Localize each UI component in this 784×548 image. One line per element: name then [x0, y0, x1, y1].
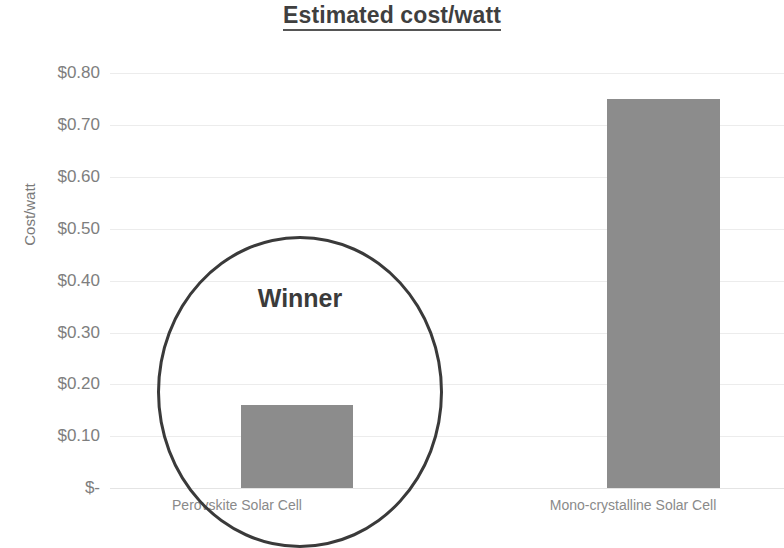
y-tick-label: $0.80 — [0, 63, 100, 83]
y-tick-label: $0.50 — [0, 219, 100, 239]
y-tick-label: $0.40 — [0, 271, 100, 291]
y-tick-label: $- — [0, 478, 100, 498]
bar-mono-crystalline[interactable] — [607, 99, 720, 488]
y-tick-label: $0.20 — [0, 374, 100, 394]
winner-annotation-label: Winner — [157, 284, 443, 313]
y-tick-label: $0.30 — [0, 323, 100, 343]
y-tick-label: $0.70 — [0, 115, 100, 135]
winner-highlight-ellipse — [157, 236, 443, 548]
y-tick-label: $0.60 — [0, 167, 100, 187]
gridline — [110, 73, 784, 74]
chart-title: Estimated cost/watt — [0, 2, 784, 29]
x-axis-label-mono-crystalline: Mono-crystalline Solar Cell — [482, 497, 784, 513]
chart-title-text: Estimated cost/watt — [283, 2, 501, 31]
y-tick-label: $0.10 — [0, 426, 100, 446]
